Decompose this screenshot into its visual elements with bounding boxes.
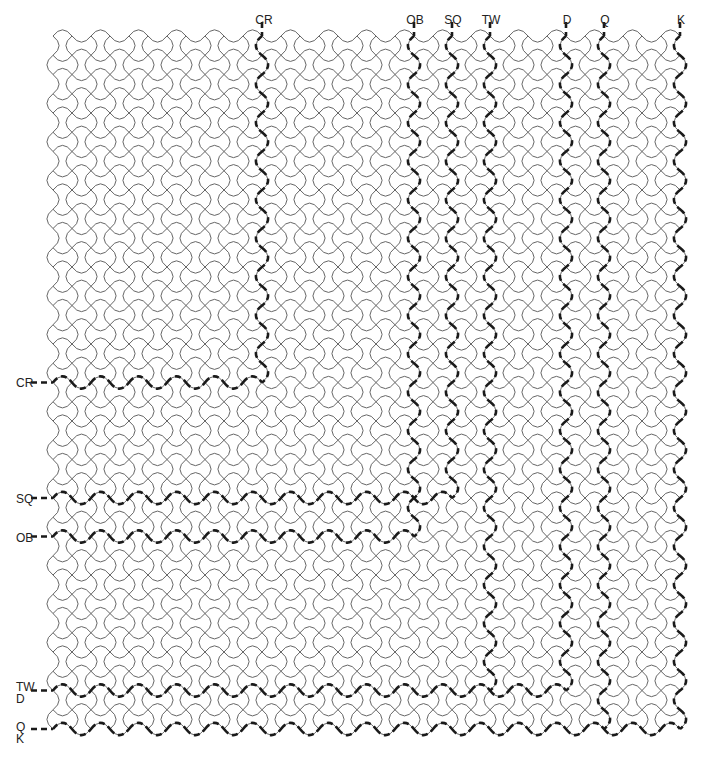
tile-grid — [0, 0, 703, 761]
cut-line-cr-horizontal — [31, 376, 262, 388]
cut-line-ob-horizontal — [31, 530, 414, 542]
cut-line-sq-vertical — [446, 22, 458, 498]
tile-outlines — [47, 30, 686, 735]
tessellation-diagram: CR OB SQ TW D Q K CR SQ OB TW D Q K — [0, 0, 703, 761]
cut-line-sq-horizontal — [31, 492, 452, 504]
left-label-ob: OB — [16, 532, 33, 544]
left-label-k: K — [16, 733, 24, 745]
top-label-k: K — [677, 14, 685, 26]
left-label-cr: CR — [16, 377, 33, 389]
top-label-sq: SQ — [444, 14, 461, 26]
cut-line-q-horizontal — [31, 723, 680, 735]
top-label-q: Q — [600, 14, 609, 26]
left-label-sq: SQ — [16, 493, 33, 505]
cut-line-ob-vertical — [408, 22, 420, 537]
left-label-d: D — [16, 693, 25, 705]
top-label-cr: CR — [255, 14, 272, 26]
top-label-tw: TW — [482, 14, 501, 26]
top-label-d: D — [563, 14, 572, 26]
top-label-ob: OB — [406, 14, 423, 26]
cut-line-cr-vertical — [256, 22, 268, 383]
